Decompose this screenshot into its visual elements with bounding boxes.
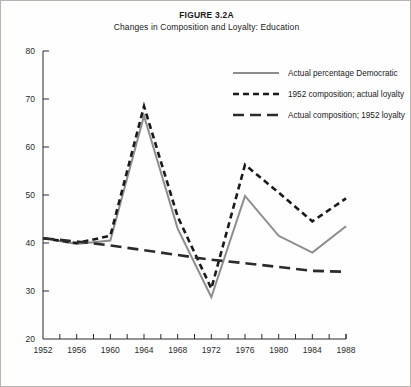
- legend-label-2: 1952 composition; actual loyalty: [288, 90, 405, 99]
- y-tick-label: 40: [26, 238, 36, 248]
- y-tick-label: 50: [26, 190, 36, 200]
- legend-label-1: Actual percentage Democratic: [288, 69, 398, 78]
- x-tick-label: 1960: [101, 345, 120, 355]
- y-tick-label: 80: [26, 46, 36, 56]
- x-tick-label: 1968: [168, 345, 187, 355]
- y-tick-label: 70: [26, 94, 36, 104]
- y-tick-label: 30: [26, 286, 36, 296]
- y-axis: 20304050607080: [26, 46, 49, 344]
- y-tick-label: 60: [26, 142, 36, 152]
- x-tick-label: 1964: [135, 345, 154, 355]
- x-axis: 1952195619601964196819721976198019841988: [34, 334, 356, 355]
- x-tick-label: 1984: [303, 345, 322, 355]
- series-lines: [43, 106, 346, 297]
- x-tick-label: 1976: [236, 345, 255, 355]
- figure-container: FIGURE 3.2A Changes in Composition and L…: [0, 0, 411, 387]
- x-tick-label: 1980: [269, 345, 288, 355]
- x-tick-label: 1956: [67, 345, 86, 355]
- x-tick-label: 1988: [337, 345, 356, 355]
- x-tick-label: 1972: [202, 345, 221, 355]
- y-tick-label: 20: [26, 334, 36, 344]
- x-tick-label: 1952: [34, 345, 53, 355]
- chart-legend: Actual percentage Democratic1952 composi…: [233, 69, 406, 120]
- line-chart: 20304050607080 1952195619601964196819721…: [1, 1, 411, 387]
- legend-label-3: Actual composition; 1952 loyalty: [288, 111, 406, 120]
